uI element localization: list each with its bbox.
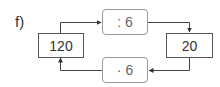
problem-label: f) <box>15 13 24 30</box>
value-left-text: 120 <box>49 38 72 54</box>
operation-multiply-text: · 6 <box>117 62 133 78</box>
operation-box-multiply: · 6 <box>102 57 148 83</box>
value-right-text: 20 <box>182 38 198 54</box>
value-box-right: 20 <box>166 33 213 58</box>
operation-box-divide: : 6 <box>102 9 148 35</box>
operation-divide-text: : 6 <box>117 14 133 30</box>
value-box-left: 120 <box>38 33 84 58</box>
